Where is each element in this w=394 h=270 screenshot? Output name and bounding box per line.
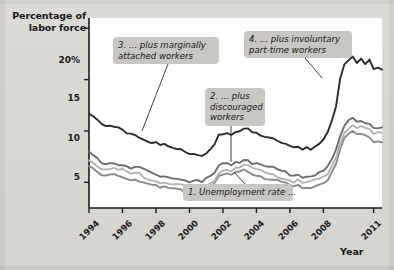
callout-1-line1: 1. Unemployment rate ... xyxy=(188,187,288,198)
callout-3-line2: attached workers xyxy=(118,51,214,62)
callout-4-line1: 4. ... plus involuntary xyxy=(249,34,347,45)
leader-line-3 xyxy=(142,64,168,131)
page-edge-right xyxy=(389,0,394,270)
callout-1-unemployment-rate: 1. Unemployment rate ... xyxy=(183,184,293,201)
chart-figure: Percentage of labor force Year 20% 15 10… xyxy=(0,0,394,270)
callout-2-line3: workers xyxy=(210,112,260,123)
callout-4-line2: part-time workers xyxy=(249,45,347,56)
page-edge-top xyxy=(0,0,394,4)
page-edge-left xyxy=(0,0,5,270)
callout-3-marginally-attached: 3. ... plus marginally attached workers xyxy=(113,37,219,64)
data-series-group xyxy=(89,57,382,196)
leader-line-1 xyxy=(234,172,245,184)
page-edge-bottom xyxy=(0,266,394,270)
callout-2-discouraged: 2. ... plus discouraged workers xyxy=(205,88,265,126)
callout-3-line1: 3. ... plus marginally xyxy=(118,40,214,51)
leader-line-4 xyxy=(305,58,322,78)
callout-4-involuntary-parttime: 4. ... plus involuntary part-time worker… xyxy=(244,31,352,58)
callout-2-line1: 2. ... plus xyxy=(210,91,260,102)
callout-2-line2: discouraged xyxy=(210,102,260,113)
